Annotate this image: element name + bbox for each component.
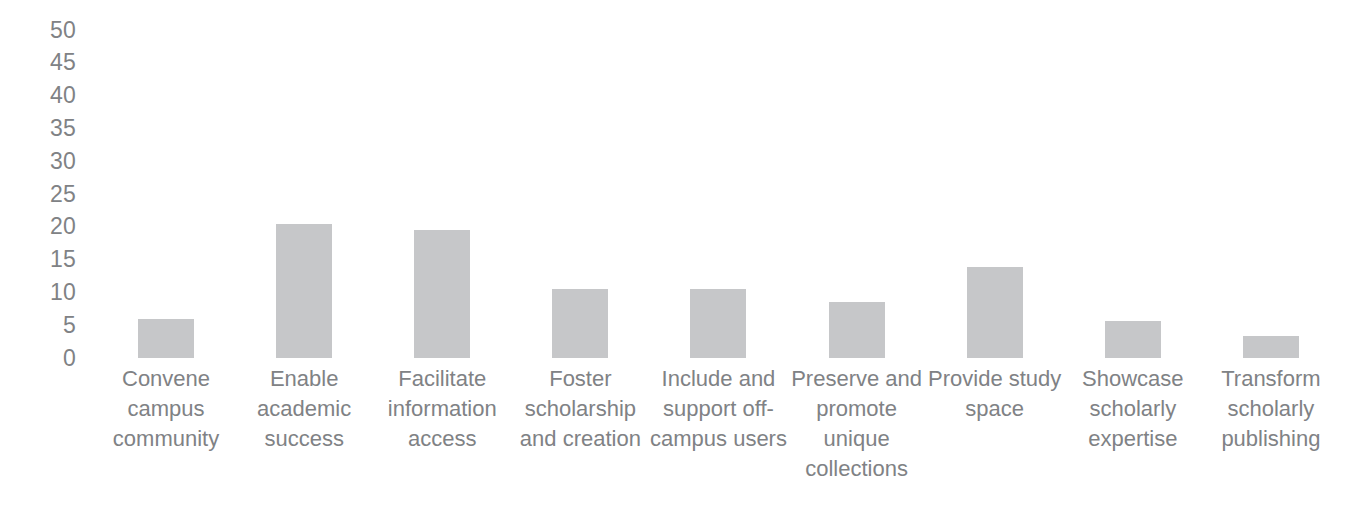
y-axis-tick-label: 50: [6, 19, 76, 42]
x-axis-tick-slot: Convene campus community: [97, 364, 235, 494]
bar: [829, 302, 885, 358]
x-axis-tick-label: Include and support off-campus users: [649, 364, 787, 494]
y-axis-tick-label: 40: [6, 84, 76, 107]
y-axis-tick-label: 30: [6, 150, 76, 173]
y-axis-tick-label: 5: [6, 314, 76, 337]
x-axis-tick-label: Transform scholarly publishing: [1202, 364, 1340, 494]
bar-chart: 50454035302520151050 Convene campus comm…: [0, 0, 1347, 506]
x-axis-tick-label: Preserve and promote unique collections: [788, 364, 926, 494]
bar: [138, 319, 194, 358]
bar-slot: [649, 30, 787, 358]
bars-layer: [97, 30, 1340, 358]
y-axis-tick-label: 15: [6, 248, 76, 271]
y-axis-tick-label: 35: [6, 117, 76, 140]
bar-slot: [235, 30, 373, 358]
x-axis-tick-slot: Foster scholarship and creation: [511, 364, 649, 494]
bar: [414, 230, 470, 358]
bar-slot: [1064, 30, 1202, 358]
x-axis-tick-slot: Include and support off-campus users: [649, 364, 787, 494]
y-axis-tick-label: 0: [6, 347, 76, 370]
x-axis-tick-slot: Facilitate information access: [373, 364, 511, 494]
bar-slot: [97, 30, 235, 358]
x-axis-tick-label: Foster scholarship and creation: [511, 364, 649, 494]
x-axis-tick-slot: Preserve and promote unique collections: [788, 364, 926, 494]
y-axis-tick-label: 45: [6, 51, 76, 74]
x-axis-tick-slot: Provide study space: [926, 364, 1064, 494]
y-axis-tick-label: 20: [6, 215, 76, 238]
plot-area: [97, 30, 1340, 358]
x-axis-tick-label: Enable academic success: [235, 364, 373, 494]
x-axis-tick-slot: Transform scholarly publishing: [1202, 364, 1340, 494]
x-axis-tick-slot: Showcase scholarly expertise: [1064, 364, 1202, 494]
bar: [690, 289, 746, 358]
x-axis-tick-label: Facilitate information access: [373, 364, 511, 494]
y-axis-tick-label: 10: [6, 281, 76, 304]
x-axis-tick-label: Showcase scholarly expertise: [1064, 364, 1202, 494]
bar: [967, 267, 1023, 358]
x-axis: Convene campus communityEnable academic …: [97, 364, 1340, 494]
y-axis-tick-label: 25: [6, 183, 76, 206]
bar-slot: [926, 30, 1064, 358]
bar-slot: [1202, 30, 1340, 358]
bar-slot: [788, 30, 926, 358]
bar: [1243, 336, 1299, 358]
x-axis-tick-label: Provide study space: [926, 364, 1064, 494]
x-axis-tick-slot: Enable academic success: [235, 364, 373, 494]
bar: [1105, 321, 1161, 358]
bar-slot: [373, 30, 511, 358]
y-axis: 50454035302520151050: [0, 0, 86, 506]
bar: [552, 289, 608, 358]
bar-slot: [511, 30, 649, 358]
x-axis-tick-label: Convene campus community: [97, 364, 235, 494]
bar: [276, 224, 332, 358]
